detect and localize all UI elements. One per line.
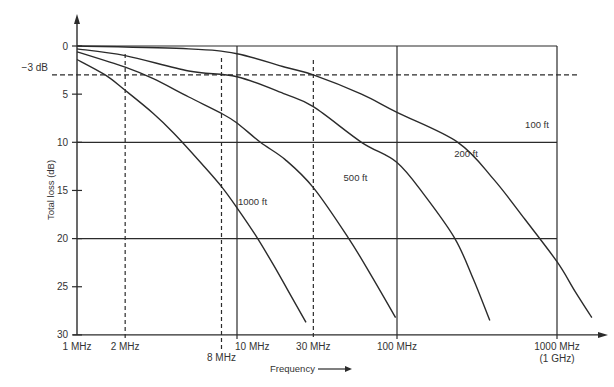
y-tick-label: 30 [57, 329, 69, 340]
grid-lines [52, 46, 580, 349]
axis-labels: 0510152025301 MHz2 MHz8 MHz10 MHz30 MHz1… [57, 41, 580, 364]
curve-label-1000ft: 1000 ft [238, 196, 267, 207]
y-tick-label: 0 [62, 41, 68, 52]
x-tick-label: 1000 MHz [534, 341, 580, 352]
y-axis-title: Total loss (dB) [45, 160, 56, 220]
curve-label-100ft: 100 ft [525, 119, 549, 130]
loss-curves [77, 46, 592, 322]
y-axis-arrow-icon [74, 14, 80, 24]
y-tick-label: 20 [57, 233, 69, 244]
x-axis-arrow-icon [598, 332, 608, 338]
y-tick-label: 5 [62, 89, 68, 100]
curve-label-200ft: 200 ft [454, 148, 478, 159]
x-tick-label: 1 MHz [63, 341, 92, 352]
x-axis-title: Frequency [270, 363, 315, 374]
y-tick-label: 25 [57, 281, 69, 292]
curve-100ft [77, 46, 592, 318]
curve-200ft [77, 49, 490, 321]
y-tick-label: 10 [57, 137, 69, 148]
x-tick-label: 10 MHz [235, 341, 269, 352]
minus-3db-label: −3 dB [22, 62, 49, 73]
chart-canvas: 0510152025301 MHz2 MHz8 MHz10 MHz30 MHz1… [0, 0, 614, 387]
x-tick-label: 100 MHz [377, 341, 417, 352]
x-tick-label: 2 MHz [111, 341, 140, 352]
x-axis-title-arrow-icon [318, 366, 352, 372]
y-tick-label: 15 [57, 185, 69, 196]
cable-loss-chart: 0510152025301 MHz2 MHz8 MHz10 MHz30 MHz1… [0, 0, 614, 387]
x-tick-sublabel: (1 GHz) [540, 353, 575, 364]
x-tick-label: 8 MHz [207, 352, 236, 363]
curve-label-500ft: 500 ft [344, 172, 368, 183]
x-tick-label: 30 MHz [296, 341, 330, 352]
